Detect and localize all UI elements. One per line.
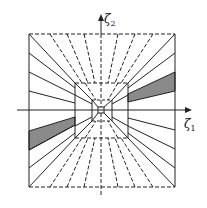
x-axis-subscript: 1 xyxy=(191,124,196,133)
ray-top xyxy=(121,34,153,83)
ray-left xyxy=(29,91,75,103)
cone-partition-diagram xyxy=(0,0,207,208)
ray-top xyxy=(108,34,118,83)
ray-inner xyxy=(75,117,92,126)
diag-bl-2 xyxy=(75,121,92,138)
ray-bottom xyxy=(84,138,95,187)
y-axis-label: ζ2 xyxy=(104,13,116,28)
ray-bottom xyxy=(115,138,135,187)
ray-bottom-inner xyxy=(108,121,118,138)
x-axis-label: ζ1 xyxy=(184,118,196,133)
diag-tl-3 xyxy=(92,100,98,107)
ray-inner xyxy=(112,95,128,104)
ray-top-inner xyxy=(108,83,118,100)
diag-tl-2 xyxy=(75,83,92,100)
diag-tr-3 xyxy=(104,100,112,107)
ray-bottom xyxy=(121,138,153,187)
x-axis-arrowhead-icon xyxy=(185,107,192,113)
ray-bottom xyxy=(108,138,118,187)
y-axis-subscript: 2 xyxy=(111,19,116,28)
ray-inner xyxy=(112,117,128,126)
ray-inner xyxy=(75,95,92,104)
ray-top-inner xyxy=(85,83,96,100)
diag-br-3 xyxy=(104,113,112,121)
ray-top xyxy=(84,34,95,83)
diag-bl-3 xyxy=(92,113,98,121)
ray-right xyxy=(128,118,175,130)
diag-tr-2 xyxy=(112,83,128,100)
shaded-band-right xyxy=(128,72,175,102)
diag-br-2 xyxy=(112,121,128,138)
ray-bottom-inner xyxy=(85,121,96,138)
ray-top xyxy=(115,34,135,83)
